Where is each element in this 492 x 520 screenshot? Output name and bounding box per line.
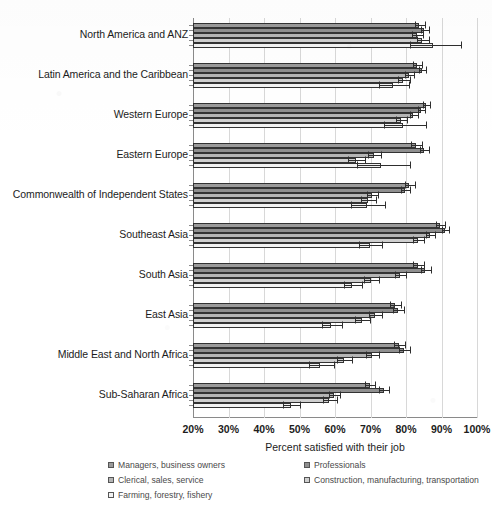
error-bar xyxy=(369,315,381,316)
x-axis-tick-labels: 20%30%40%50%60%70%80%90%100% xyxy=(0,423,492,437)
error-bar xyxy=(390,305,402,306)
axis-tick xyxy=(189,305,193,306)
bar xyxy=(193,123,403,128)
axis-tick xyxy=(189,385,193,386)
error-bar-cap xyxy=(300,402,301,409)
axis-tick xyxy=(189,235,193,236)
bar-row xyxy=(193,323,477,328)
error-bar-cap xyxy=(344,282,345,289)
error-bar-cap xyxy=(283,402,284,409)
y-axis-label: South Asia xyxy=(0,268,188,280)
chart-legend: Managers, business ownersProfessionalsCl… xyxy=(108,461,488,509)
error-bar xyxy=(355,320,370,321)
axis-tick xyxy=(189,65,193,66)
axis-tick xyxy=(189,25,193,26)
axis-tick xyxy=(189,315,193,316)
x-tick-label: 70% xyxy=(360,423,381,435)
axis-tick xyxy=(189,125,193,126)
bar xyxy=(193,163,381,168)
error-bar-cap xyxy=(385,202,386,209)
error-bar-cap xyxy=(461,42,462,49)
error-bar xyxy=(379,390,389,391)
bar-group xyxy=(193,143,477,168)
error-bar xyxy=(398,80,409,81)
error-bar-cap xyxy=(426,122,427,129)
error-bar-cap xyxy=(309,362,310,369)
bar-row xyxy=(193,243,477,248)
x-tick-label: 20% xyxy=(182,423,203,435)
y-axis-label: Eastern Europe xyxy=(0,148,188,160)
error-bar xyxy=(401,190,410,191)
axis-tick xyxy=(189,70,193,71)
error-bar xyxy=(309,365,334,366)
y-axis-label: Latin America and the Caribbean xyxy=(0,68,188,80)
legend-swatch-icon xyxy=(304,477,310,483)
axis-tick xyxy=(189,75,193,76)
bar-group xyxy=(193,223,477,248)
bar-group xyxy=(193,23,477,48)
error-bar xyxy=(323,400,337,401)
axis-tick xyxy=(189,275,193,276)
axis-tick xyxy=(189,360,193,361)
bar-row xyxy=(193,283,477,288)
legend-item[interactable]: Clerical, sales, service xyxy=(108,476,203,485)
error-bar xyxy=(379,85,410,86)
bar-group xyxy=(193,303,477,328)
legend-label: Professionals xyxy=(314,461,366,470)
bar-group xyxy=(193,63,477,88)
bar-chart: North America and ANZLatin America and t… xyxy=(0,0,492,520)
bar xyxy=(193,83,393,88)
axis-tick xyxy=(189,320,193,321)
error-bar xyxy=(410,115,418,116)
legend-label: Farming, forestry, fishery xyxy=(118,491,212,500)
error-bar-cap xyxy=(334,362,335,369)
error-bar xyxy=(436,225,445,226)
error-bar xyxy=(399,350,409,351)
error-bar xyxy=(283,405,300,406)
error-bar xyxy=(359,245,382,246)
error-bar-cap xyxy=(410,162,411,169)
error-bar xyxy=(413,65,421,66)
legend-item[interactable]: Construction, manufacturing, transportat… xyxy=(304,476,479,485)
axis-tick xyxy=(189,45,193,46)
error-bar xyxy=(396,120,407,121)
error-bar xyxy=(344,285,362,286)
axis-tick xyxy=(189,400,193,401)
axis-tick xyxy=(189,395,193,396)
axis-tick xyxy=(189,310,193,311)
legend-item[interactable]: Managers, business owners xyxy=(108,461,225,470)
legend-item[interactable]: Professionals xyxy=(304,461,366,470)
error-bar xyxy=(421,270,431,271)
axis-tick xyxy=(189,150,193,151)
error-bar xyxy=(413,240,425,241)
error-bar-cap xyxy=(362,282,363,289)
bar xyxy=(193,43,433,48)
axis-tick xyxy=(189,390,193,391)
bar-group xyxy=(193,103,477,128)
axis-tick xyxy=(189,115,193,116)
error-bar xyxy=(365,385,376,386)
legend-swatch-icon xyxy=(304,462,310,468)
bar-group xyxy=(193,383,477,408)
legend-label: Clerical, sales, service xyxy=(118,476,203,485)
axis-tick xyxy=(189,195,193,196)
axis-tick xyxy=(189,85,193,86)
error-bar xyxy=(361,200,376,201)
bar-group xyxy=(193,263,477,288)
x-tick-label: 80% xyxy=(395,423,416,435)
error-bar xyxy=(421,30,430,31)
error-bar xyxy=(393,310,404,311)
x-axis-title: Percent satisfied with their job xyxy=(193,441,477,453)
axis-tick xyxy=(189,245,193,246)
legend-swatch-icon xyxy=(108,462,114,468)
bar xyxy=(193,363,320,368)
axis-tick xyxy=(189,205,193,206)
error-bar xyxy=(417,40,429,41)
axis-tick xyxy=(189,345,193,346)
legend-item[interactable]: Farming, forestry, fishery xyxy=(108,491,212,500)
axis-tick xyxy=(189,405,193,406)
axis-tick xyxy=(189,225,193,226)
axis-tick xyxy=(189,350,193,351)
y-axis-label: Southeast Asia xyxy=(0,228,188,240)
axis-tick xyxy=(189,270,193,271)
